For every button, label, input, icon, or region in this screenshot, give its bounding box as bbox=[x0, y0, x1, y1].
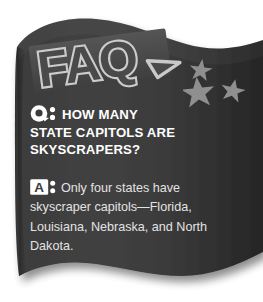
question-bubble-icon bbox=[30, 105, 57, 122]
answer-block: A Only four states have skyscraper capit… bbox=[30, 166, 235, 269]
star-small-top bbox=[188, 57, 214, 81]
three-stars-icon bbox=[183, 55, 255, 111]
faq-card: FAQ bbox=[0, 0, 263, 302]
stars-decoration bbox=[183, 55, 255, 111]
question-text-line-2: STATE CAPITOLS ARE bbox=[30, 124, 230, 142]
star-group bbox=[183, 57, 247, 108]
answer-paragraph: A Only four states have skyscraper capit… bbox=[30, 179, 235, 257]
question-text-line-3: SKYSCRAPERS? bbox=[30, 141, 230, 159]
answer-box-icon: A bbox=[30, 179, 57, 195]
star-large-left bbox=[183, 75, 216, 108]
question-line-1: HOW MANY bbox=[30, 106, 230, 124]
svg-text:A: A bbox=[34, 180, 44, 195]
faq-logo-text: FAQ bbox=[34, 29, 140, 98]
star-medium-right bbox=[219, 77, 248, 104]
question-block: HOW MANY STATE CAPITOLS ARE SKYSCRAPERS? bbox=[30, 106, 230, 159]
question-text-line-1: HOW MANY bbox=[62, 106, 138, 124]
